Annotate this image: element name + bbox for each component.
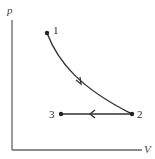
diagram-svg: p V 1 2 3 (0, 0, 155, 159)
point-1-label: 1 (53, 24, 59, 36)
process-1-2-curve (47, 33, 132, 114)
pv-diagram: p V 1 2 3 (0, 0, 155, 159)
point-3-label: 3 (49, 108, 55, 120)
point-3 (59, 112, 63, 116)
point-2 (130, 112, 134, 116)
y-axis-label: p (6, 4, 13, 16)
point-1 (45, 31, 49, 35)
x-axis-label: V (144, 143, 152, 155)
point-2-label: 2 (137, 108, 143, 120)
